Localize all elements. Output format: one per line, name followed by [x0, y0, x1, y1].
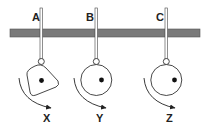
pivot-label-a: A	[32, 11, 40, 23]
object-label-x: X	[43, 112, 51, 124]
center-of-mass-x	[39, 78, 44, 83]
object-label-z: Z	[166, 112, 173, 124]
rod-a	[40, 8, 43, 59]
object-label-y: Y	[96, 112, 104, 124]
pivot-label-b: B	[86, 11, 94, 23]
horizontal-bar	[10, 29, 200, 37]
hook-c	[163, 59, 169, 65]
pendulum-a: A X	[19, 8, 59, 124]
rod-c	[165, 8, 168, 59]
object-y-shape	[81, 65, 112, 96]
pendulum-c: C Z	[144, 8, 182, 124]
pendulum-b: B Y	[74, 8, 112, 124]
center-of-mass-z	[172, 78, 177, 83]
rod-b	[95, 8, 98, 59]
center-of-mass-y	[99, 78, 104, 83]
hook-b	[93, 59, 99, 65]
pendulum-diagram: A X B Y C Z	[0, 0, 211, 131]
hook-a	[38, 59, 44, 65]
object-z-shape	[151, 65, 182, 96]
pivot-label-c: C	[156, 11, 164, 23]
